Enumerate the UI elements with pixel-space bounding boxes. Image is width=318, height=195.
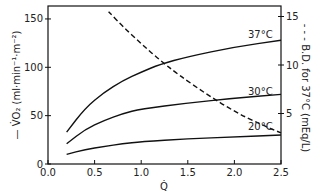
y-tick-label: 0 [37,159,43,170]
chart: 0.00.51.01.52.02.5 050100150 51015 37°C … [0,0,318,195]
y-axis-ticks: 050100150 [24,13,51,169]
y-tick-label: 150 [24,13,43,24]
x-tick-label: 2.5 [273,167,289,178]
x-tick-label: 1.5 [180,167,196,178]
right-y-axis-label: - - - B.D. for 37°C (mEq/L) [300,24,311,153]
series-line [67,135,281,154]
x-axis-ticks: 0.00.51.01.52.02.5 [40,160,289,178]
x-tick-label: 0.5 [87,167,103,178]
label-20c: 20°C [248,121,273,132]
right-y-tick-label: 15 [286,11,299,22]
x-tick-label: 2.0 [226,167,242,178]
label-37c: 37°C [248,29,273,40]
right-y-tick-label: 5 [286,108,292,119]
right-y-tick-label: 10 [286,60,299,71]
x-axis-label: Q̇ [160,180,168,192]
y-tick-label: 100 [24,62,43,73]
y-tick-label: 50 [30,110,43,121]
x-tick-label: 1.0 [133,167,149,178]
label-30c: 30°C [248,86,273,97]
y-axis-label: — V̇O₂ (ml·min⁻¹·m⁻²) [10,30,22,139]
